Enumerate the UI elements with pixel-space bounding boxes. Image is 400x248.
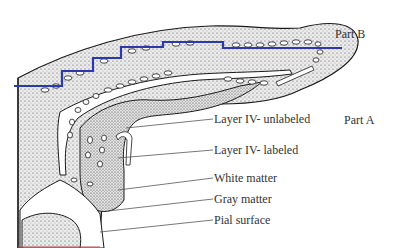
white-matter-label: White matter — [214, 171, 277, 185]
pial-surface-label: Pial surface — [214, 213, 270, 227]
layer-iv-labeled-label: Layer IV- labeled — [214, 143, 298, 157]
callout-line-white-matter — [118, 178, 213, 190]
callout-line-pial-surface — [100, 220, 213, 232]
callout-line-layer-iv-unlabeled — [126, 119, 213, 128]
callout-line-layer-iv-labeled — [118, 150, 213, 158]
part-b-label: Part B — [335, 27, 365, 41]
layer-iv-unlabeled-label: Layer IV- unlabeled — [214, 112, 310, 126]
gray-matter-label: Gray matter — [214, 192, 272, 206]
part-a-label: Part A — [344, 113, 374, 127]
